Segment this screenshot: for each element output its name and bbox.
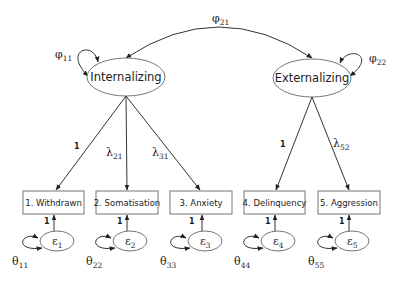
error-path-label-3: 1 <box>189 217 195 226</box>
loading-label-4: 1 <box>280 140 286 149</box>
indicator-label-3: 3. Anxiety <box>180 198 223 208</box>
loading-label-3: λ31 <box>152 146 169 161</box>
externalizing-label: Externalizing <box>275 71 350 85</box>
theta-label-4: θ44 <box>234 255 250 270</box>
theta-label-1: θ11 <box>12 255 28 270</box>
error-path-label-4: 1 <box>265 217 271 226</box>
loading-label-1: 1 <box>74 142 80 151</box>
error-loop-2 <box>96 236 115 248</box>
indicator-label-2: 2. Somatisation <box>94 198 161 208</box>
sem-diagram: φ21 φ11 φ22 Internalizing Externalizing … <box>0 0 403 285</box>
loading-path-3 <box>126 96 200 190</box>
theta-label-5: θ55 <box>308 255 324 270</box>
error-loop-3 <box>171 236 190 248</box>
covariance-arc <box>126 27 312 58</box>
internalizing-label: Internalizing <box>90 70 161 84</box>
loading-label-2: λ21 <box>106 146 123 161</box>
error-loop-1 <box>23 236 42 248</box>
loading-path-2 <box>126 96 127 190</box>
indicator-label-1: 1. Withdrawn <box>25 198 82 208</box>
theta-label-2: θ22 <box>86 255 102 270</box>
indicator-label-4: 4. Delinquency <box>243 198 307 208</box>
error-loop-5 <box>318 236 337 248</box>
error-path-label-5: 1 <box>339 217 345 226</box>
phi21-label: φ21 <box>212 12 229 27</box>
loading-path-1 <box>56 96 126 190</box>
indicator-label-5: 5. Aggression <box>320 198 378 208</box>
theta-label-3: θ33 <box>160 255 176 270</box>
error-loop-4 <box>244 236 263 248</box>
error-path-label-1: 1 <box>44 217 50 226</box>
phi22-label: φ22 <box>369 52 386 67</box>
loading-label-5: λ52 <box>333 137 350 152</box>
phi11-label: φ11 <box>55 48 72 63</box>
error-path-label-2: 1 <box>117 217 123 226</box>
